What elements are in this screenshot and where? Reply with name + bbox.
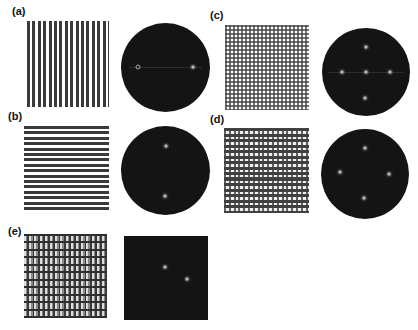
panel-b-fft-image — [121, 126, 210, 215]
panel-d-label: (d) — [210, 113, 224, 125]
panel-b-label: (b) — [8, 110, 22, 122]
panel-e-fft-image — [124, 236, 208, 320]
panel-e-label: (e) — [8, 225, 21, 237]
panel-a-fft-image — [121, 23, 210, 112]
panel-d-fft-image — [321, 129, 409, 219]
panel-b-pattern-image — [24, 126, 109, 210]
panel-d-pattern-image — [224, 128, 309, 213]
panel-a-label: (a) — [12, 5, 25, 17]
panel-c-label: (c) — [210, 9, 223, 21]
panel-c-pattern-image — [225, 25, 309, 110]
panel-c-fft-image — [322, 28, 410, 116]
panel-a-pattern-image — [27, 21, 109, 107]
panel-e-pattern-image — [24, 234, 107, 318]
